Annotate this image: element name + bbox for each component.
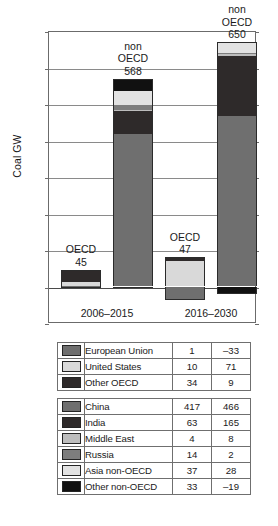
- bar-annotation-non-oecd-2016-2030: nonOECD650: [202, 3, 272, 40]
- legend-swatch-cell: [58, 431, 85, 447]
- bar-annotation-oecd-2006-2015: OECD45: [46, 243, 116, 268]
- bar-group-label: non: [98, 40, 168, 52]
- legend-series-name: Other OECD: [85, 375, 173, 391]
- legend-color-swatch: [62, 481, 81, 492]
- bar-segment: [113, 111, 153, 134]
- legend-row-non-oecd: China417466: [58, 399, 251, 415]
- bar-segment: [165, 287, 205, 299]
- bar-segment: [61, 270, 101, 282]
- bar-total-value: 650: [202, 28, 272, 40]
- legend-table-oecd: European Union1–33United States1071Other…: [57, 342, 251, 391]
- bar-annotation-oecd-2016-2030: OECD47: [150, 231, 220, 256]
- legend-row-oecd: United States1071: [58, 359, 251, 375]
- legend-value-2016-2030: 9: [212, 375, 251, 391]
- legend-value-2006-2015: 63: [173, 415, 212, 431]
- legend-row-oecd: European Union1–33: [58, 343, 251, 359]
- legend-value-2006-2015: 34: [173, 375, 212, 391]
- legend-value-2016-2030: 71: [212, 359, 251, 375]
- legend-row-non-oecd: Asia non-OECD3728: [58, 463, 251, 479]
- legend-series-name: Middle East: [85, 431, 173, 447]
- legend-swatch-cell: [58, 415, 85, 431]
- legend-series-name: India: [85, 415, 173, 431]
- y-axis-tick-mark: [45, 178, 49, 179]
- bar-top-cap: [61, 270, 101, 271]
- bar-segment: [217, 287, 257, 294]
- legend-value-2006-2015: 37: [173, 463, 212, 479]
- bar-top-cap: [165, 257, 205, 258]
- legend-row-oecd: Other OECD349: [58, 375, 251, 391]
- legend-color-swatch: [62, 401, 81, 412]
- legend-swatch-cell: [58, 375, 85, 391]
- bar-total-value: 45: [46, 256, 116, 268]
- bar-bottom-cap: [165, 299, 205, 300]
- bar-group-label: OECD: [46, 243, 116, 255]
- bar-segment: [217, 53, 257, 54]
- bar-segment: [165, 261, 205, 287]
- legend-value-2016-2030: 8: [212, 431, 251, 447]
- legend-color-swatch: [62, 361, 81, 372]
- legend-swatch-cell: [58, 463, 85, 479]
- legend-color-swatch: [62, 417, 81, 428]
- legend-region: European Union1–33United States1071Other…: [57, 342, 251, 495]
- legend-value-2016-2030: –33: [212, 343, 251, 359]
- legend-color-swatch: [62, 345, 81, 356]
- legend-series-name: Russia: [85, 447, 173, 463]
- legend-swatch-cell: [58, 447, 85, 463]
- legend-series-name: China: [85, 399, 173, 415]
- bar-oecd-2006-2015: [61, 31, 101, 323]
- legend-value-2016-2030: 2: [212, 447, 251, 463]
- legend-series-name: Other non-OECD: [85, 479, 173, 495]
- legend-value-2006-2015: 4: [173, 431, 212, 447]
- bar-segment: [113, 105, 153, 110]
- bar-bottom-cap: [61, 287, 101, 288]
- bar-top-cap: [217, 42, 257, 43]
- legend-swatch-cell: [58, 359, 85, 375]
- legend-series-name: European Union: [85, 343, 173, 359]
- legend-row-non-oecd: Middle East48: [58, 431, 251, 447]
- legend-color-swatch: [62, 377, 81, 388]
- bar-segment: [113, 110, 153, 111]
- legend-value-2006-2015: 33: [173, 479, 212, 495]
- legend-table-non-oecd: China417466India63165Middle East48Russia…: [57, 398, 251, 495]
- bar-top-cap: [113, 79, 153, 80]
- bar-total-value: 47: [150, 243, 220, 255]
- bar-segment: [217, 116, 257, 286]
- legend-value-2016-2030: 165: [212, 415, 251, 431]
- y-axis-tick-mark: [45, 69, 49, 70]
- legend-value-2006-2015: 10: [173, 359, 212, 375]
- bar-group-label: OECD: [98, 52, 168, 64]
- legend-value-2016-2030: 466: [212, 399, 251, 415]
- bar-segment: [113, 91, 153, 105]
- legend-value-2006-2015: 14: [173, 447, 212, 463]
- legend-value-2006-2015: 1: [173, 343, 212, 359]
- y-axis-tick-mark-right: [255, 324, 259, 325]
- chart-figure: Coal GW 7006005004003002001000−100 OECD4…: [0, 0, 278, 338]
- legend-series-name: United States: [85, 359, 173, 375]
- y-axis-title: Coal GW: [11, 116, 23, 196]
- legend-swatch-cell: [58, 479, 85, 495]
- y-axis-tick-mark: [45, 32, 49, 33]
- bar-segment: [113, 134, 153, 286]
- legend-color-swatch: [62, 465, 81, 476]
- y-axis-tick-mark: [45, 142, 49, 143]
- legend-color-swatch: [62, 449, 81, 460]
- bar-bottom-cap: [217, 293, 257, 294]
- bar-bottom-cap: [113, 287, 153, 288]
- bar-segment: [217, 56, 257, 116]
- y-axis-tick-mark: [45, 288, 49, 289]
- y-axis-tick-mark: [45, 215, 49, 216]
- legend-swatch-cell: [58, 343, 85, 359]
- bar-non-oecd-2016-2030: [217, 31, 257, 323]
- y-axis-tick-mark: [45, 324, 49, 325]
- bar-group-label: OECD: [150, 231, 220, 243]
- bar-segment: [113, 79, 153, 91]
- bar-annotation-non-oecd-2006-2015: nonOECD568: [98, 40, 168, 77]
- legend-series-name: Asia non-OECD: [85, 463, 173, 479]
- bar-segment: [217, 42, 257, 52]
- y-axis-tick-mark: [45, 105, 49, 106]
- x-axis-label: 2006–2015: [62, 307, 152, 319]
- bar-group-label: OECD: [202, 16, 272, 28]
- legend-row-non-oecd: India63165: [58, 415, 251, 431]
- legend-value-2016-2030: 28: [212, 463, 251, 479]
- legend-swatch-cell: [58, 399, 85, 415]
